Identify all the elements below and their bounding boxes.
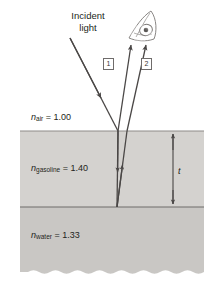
- ray-label-2: 2: [141, 58, 152, 70]
- thickness-label: t: [178, 167, 181, 176]
- incident-light-label: Incident light: [57, 10, 119, 34]
- n-subscript-gasoline: gasoline: [36, 166, 60, 173]
- n-value-gasoline: 1.40: [71, 163, 89, 173]
- n-subscript-water: water: [36, 233, 52, 240]
- refractive-index-water: nwater = 1.33: [31, 231, 80, 241]
- incident-light-line1: Incident: [57, 10, 119, 22]
- refractive-index-air: nair = 1.00: [31, 113, 71, 123]
- ray-label-1: 1: [103, 58, 114, 70]
- n-value-water: 1.33: [62, 230, 80, 240]
- diagram-svg: [0, 0, 204, 293]
- figure-canvas: Incident light nair = 1.00 ngasoline = 1…: [0, 0, 204, 293]
- n-value-air: 1.00: [54, 112, 72, 122]
- n-equals-gasoline: =: [60, 163, 70, 173]
- refractive-index-gasoline: ngasoline = 1.40: [31, 164, 88, 174]
- n-equals-water: =: [52, 230, 62, 240]
- incident-light-line2: light: [57, 22, 119, 34]
- n-equals-air: =: [43, 112, 53, 122]
